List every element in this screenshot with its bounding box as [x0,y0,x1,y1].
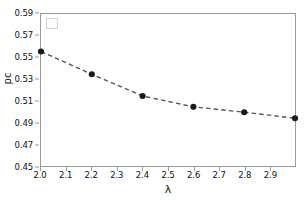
y-tick-mark [35,13,39,14]
y-tick-label: 0.45 [14,162,33,172]
y-tick-mark [35,57,39,58]
data-point-marker [89,71,95,77]
x-axis-tick-labels: 2.02.12.22.32.42.52.62.72.82.9 [40,170,296,184]
data-point-marker [38,48,44,54]
data-point-marker [190,104,196,110]
x-tick-mark [168,167,169,171]
y-tick-mark [35,123,39,124]
figure-canvas: pc 0.590.570.550.530.510.490.470.45 2.02… [0,0,305,202]
y-tick-label: 0.51 [14,96,33,106]
y-tick-label: 0.59 [14,8,33,18]
y-tick-mark [35,167,39,168]
x-tick-mark [219,167,220,171]
x-tick-label: 2.1 [59,170,72,180]
data-series-svg [41,14,295,166]
x-tick-label: 2.0 [33,170,46,180]
data-point-marker [292,115,298,121]
x-tick-label: 2.4 [136,170,149,180]
x-tick-label: 2.2 [85,170,98,180]
x-tick-mark [245,167,246,171]
y-tick-mark [35,145,39,146]
y-tick-mark [35,101,39,102]
x-tick-label: 2.7 [213,170,226,180]
x-tick-label: 2.3 [110,170,123,180]
x-axis-label: λ [40,183,296,196]
x-tick-mark [40,167,41,171]
y-tick-label: 0.49 [14,118,33,128]
x-tick-label: 2.9 [264,170,277,180]
x-tick-label: 2.6 [187,170,200,180]
x-tick-label: 2.5 [161,170,174,180]
x-tick-mark [194,167,195,171]
y-tick-mark [35,79,39,80]
plot-area [40,13,296,167]
x-tick-mark [66,167,67,171]
series-markers-pc [38,48,298,121]
series-line-pc [41,51,295,118]
y-tick-label: 0.55 [14,52,33,62]
y-tick-mark [35,35,39,36]
y-axis-tick-labels: 0.590.570.550.530.510.490.470.45 [0,13,33,167]
x-tick-label: 2.8 [238,170,251,180]
x-tick-mark [270,167,271,171]
y-tick-label: 0.53 [14,74,33,84]
y-tick-label: 0.57 [14,30,33,40]
x-tick-mark [142,167,143,171]
data-point-marker [241,109,247,115]
data-point-marker [140,93,146,99]
x-tick-mark [117,167,118,171]
y-tick-label: 0.47 [14,140,33,150]
x-tick-mark [91,167,92,171]
